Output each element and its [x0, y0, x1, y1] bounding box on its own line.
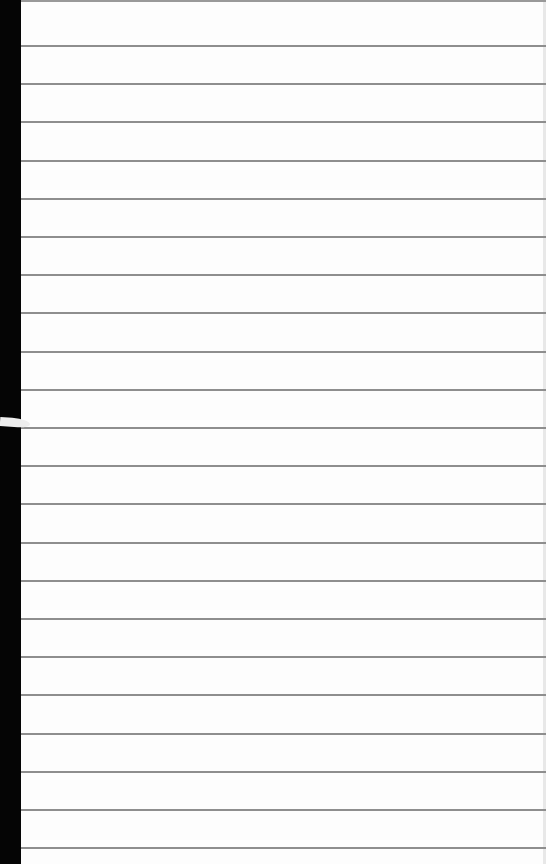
ruled-line: [21, 733, 546, 735]
ruled-line: [21, 160, 546, 162]
ruled-line: [21, 198, 546, 200]
ruled-line: [21, 618, 546, 620]
ruled-line: [21, 656, 546, 658]
black-background-edge: [0, 0, 21, 864]
ruled-line: [21, 771, 546, 773]
ruled-line: [21, 45, 546, 47]
ruled-line: [21, 121, 546, 123]
paper-top-edge: [21, 0, 546, 2]
ruled-line: [21, 580, 546, 582]
ruled-line: [21, 809, 546, 811]
ruled-paper-sheet: [21, 0, 546, 864]
ruled-line: [21, 465, 546, 467]
ruled-line: [21, 427, 546, 429]
ruled-line: [21, 847, 546, 849]
ruled-line: [21, 542, 546, 544]
ruled-line: [21, 351, 546, 353]
ruled-line: [21, 389, 546, 391]
ruled-line: [21, 503, 546, 505]
ruled-line: [21, 274, 546, 276]
ruled-line: [21, 83, 546, 85]
ruled-line: [21, 312, 546, 314]
ruled-line: [21, 236, 546, 238]
ruled-line: [21, 694, 546, 696]
